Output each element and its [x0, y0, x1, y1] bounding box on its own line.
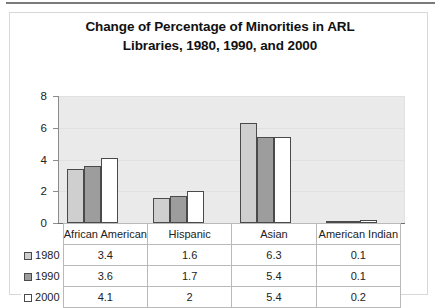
bar-2000-african-american	[101, 158, 118, 223]
y-axis-tickmark	[53, 96, 58, 97]
y-axis-tickmark	[53, 191, 58, 192]
table-cell-2000-hispanic: 2	[147, 287, 231, 308]
bar-1990-american-indian	[343, 221, 360, 223]
table-cell-1980-american-indian: 0.1	[316, 245, 400, 266]
y-axis-tick-6: 6	[41, 122, 47, 134]
table-cell-1990-african-american: 3.6	[63, 266, 147, 287]
table-cell-1980-hispanic: 1.6	[147, 245, 231, 266]
y-axis-tick-4: 4	[41, 154, 47, 166]
bar-group-hispanic	[146, 96, 233, 223]
bar-group-asian	[232, 96, 319, 223]
table-row: 19803.41.66.30.1	[21, 245, 401, 266]
chart-title-line-1: Change of Percentage of Minorities in AR…	[20, 17, 420, 36]
legend-label-1990: 1990	[35, 270, 59, 282]
bar-2000-asian	[274, 137, 291, 223]
chart-plot-wrapper: 02468	[21, 88, 411, 228]
bar-2000-american-indian	[360, 220, 377, 223]
table-header-row: African AmericanHispanicAsianAmerican In…	[21, 224, 401, 245]
bar-2000-hispanic	[187, 191, 204, 223]
chart-title: Change of Percentage of Minorities in AR…	[20, 17, 420, 55]
bar-1990-hispanic	[170, 196, 187, 223]
bar-1990-african-american	[84, 166, 101, 223]
table-cell-2000-asian: 5.4	[232, 287, 316, 308]
table-cell-2000-african-american: 4.1	[63, 287, 147, 308]
legend-swatch-icon-1990	[24, 273, 32, 281]
legend-item-2000[interactable]: 2000	[21, 287, 63, 308]
legend-item-1990[interactable]: 1990	[21, 266, 63, 287]
table-col-header-hispanic: Hispanic	[147, 224, 231, 245]
y-axis-tickmark	[53, 160, 58, 161]
y-axis-tick-8: 8	[41, 90, 47, 102]
bar-1980-hispanic	[153, 198, 170, 223]
table-col-header-asian: Asian	[232, 224, 316, 245]
chart-title-line-2: Libraries, 1980, 1990, and 2000	[20, 36, 420, 55]
bar-group-american-indian	[319, 96, 406, 223]
chart-data-table: African AmericanHispanicAsianAmerican In…	[21, 223, 401, 308]
bars-layer	[59, 96, 405, 223]
legend-swatch-icon-2000	[24, 294, 32, 302]
table-cell-2000-american-indian: 0.2	[316, 287, 400, 308]
y-axis-tick-labels: 02468	[21, 88, 51, 228]
top-divider-rule	[6, 2, 435, 4]
legend-label-2000: 2000	[35, 291, 59, 303]
table-cell-1980-african-american: 3.4	[63, 245, 147, 266]
table-col-header-african-american: African American	[63, 224, 147, 245]
table-body: 19803.41.66.30.119903.61.75.40.120004.12…	[21, 245, 401, 308]
y-axis-tick-2: 2	[41, 185, 47, 197]
table-cell-1980-asian: 6.3	[232, 245, 316, 266]
table-corner-cell	[21, 224, 63, 245]
table-cell-1990-american-indian: 0.1	[316, 266, 400, 287]
bar-1980-asian	[240, 123, 257, 223]
bar-1980-african-american	[67, 169, 84, 223]
bar-1990-asian	[257, 137, 274, 223]
legend-label-1980: 1980	[35, 249, 59, 261]
bar-1980-american-indian	[326, 221, 343, 223]
table-row: 19903.61.75.40.1	[21, 266, 401, 287]
y-axis-tickmark	[53, 128, 58, 129]
table-col-header-american-indian: American Indian	[316, 224, 400, 245]
legend-swatch-icon-1980	[24, 252, 32, 260]
bar-group-african-american	[59, 96, 146, 223]
table-cell-1990-asian: 5.4	[232, 266, 316, 287]
legend-item-1980[interactable]: 1980	[21, 245, 63, 266]
table-cell-1990-hispanic: 1.7	[147, 266, 231, 287]
table-row: 20004.125.40.2	[21, 287, 401, 308]
